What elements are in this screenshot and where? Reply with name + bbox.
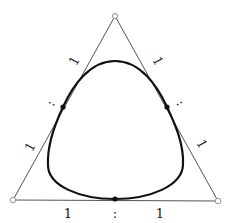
bottom-side-separator: : xyxy=(113,206,117,221)
left-side-lower-label: 1 xyxy=(21,140,38,155)
left-side-upper-label: 1 xyxy=(65,54,82,69)
tangent-point-left xyxy=(60,104,65,109)
vertex-bottom-right xyxy=(215,198,221,204)
vertex-bottom-left xyxy=(10,197,16,203)
bottom-side-right-label: 1 xyxy=(156,206,164,221)
right-side-lower-label: 1 xyxy=(193,137,210,152)
right-side-upper-label: 1 xyxy=(149,54,166,69)
vertex-top xyxy=(112,13,117,18)
diagram-canvas: 1 : 1 1 : 1 1 : 1 xyxy=(0,0,231,223)
inscribed-curve xyxy=(48,61,183,199)
tangent-point-right xyxy=(164,104,169,109)
left-side-separator: : xyxy=(42,97,57,108)
tangent-point-bottom xyxy=(112,196,117,201)
bottom-side-left-label: 1 xyxy=(64,206,72,221)
right-side-separator: : xyxy=(173,97,188,108)
triangle xyxy=(13,16,218,201)
